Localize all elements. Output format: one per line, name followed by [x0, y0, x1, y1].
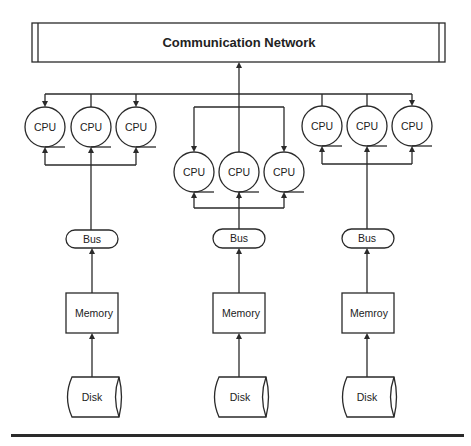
- cpu-label: CPU: [34, 121, 56, 133]
- bus-label: Bus: [230, 232, 248, 244]
- bus-node: Bus: [342, 229, 394, 248]
- memory-label: Memroy: [350, 307, 389, 319]
- cluster-middle: CPU CPU CPU Bus Memory Disk: [174, 107, 304, 417]
- memory-node: Memory: [66, 293, 118, 333]
- cpu-label: CPU: [125, 121, 147, 133]
- memory-label: Memory: [75, 307, 114, 319]
- communication-network: Communication Network: [32, 23, 445, 62]
- bus-label: Bus: [358, 232, 376, 244]
- disk-label: Disk: [230, 391, 251, 403]
- cpu-label: CPU: [273, 166, 295, 178]
- cpu-node: CPU: [302, 106, 342, 146]
- cpu-label: CPU: [80, 121, 102, 133]
- bus-node: Bus: [66, 230, 118, 248]
- cluster-right: CPU CPU CPU Bus Memroy Disk: [302, 94, 432, 417]
- distributed-system-diagram: Communication Network CPU CPU CPU: [0, 0, 471, 446]
- disk-label: Disk: [82, 391, 103, 403]
- memory-node: Memroy: [342, 293, 394, 333]
- cpu-label: CPU: [311, 120, 333, 132]
- cpu-label: CPU: [183, 166, 205, 178]
- cpu-label: CPU: [228, 166, 250, 178]
- cpu-node: CPU: [116, 107, 156, 147]
- memory-node: Memory: [213, 293, 265, 333]
- disk-node: Disk: [68, 377, 122, 417]
- cpu-node: CPU: [174, 152, 214, 192]
- bus-label: Bus: [83, 233, 101, 245]
- disk-node: Disk: [215, 377, 269, 417]
- cpu-node: CPU: [219, 152, 259, 192]
- cpu-node: CPU: [392, 106, 432, 146]
- cpu-label: CPU: [356, 120, 378, 132]
- network-label: Communication Network: [162, 35, 316, 50]
- disk-label: Disk: [357, 391, 378, 403]
- cpu-node: CPU: [71, 107, 111, 147]
- cluster-left: CPU CPU CPU Bus Memory Disk: [25, 94, 156, 417]
- cpu-node: CPU: [264, 152, 304, 192]
- bottom-rule: [11, 434, 464, 437]
- cpu-node: CPU: [25, 107, 65, 147]
- bus-node: Bus: [213, 229, 265, 248]
- disk-node: Disk: [343, 377, 397, 417]
- cpu-label: CPU: [401, 120, 423, 132]
- memory-label: Memory: [222, 307, 261, 319]
- cpu-node: CPU: [347, 106, 387, 146]
